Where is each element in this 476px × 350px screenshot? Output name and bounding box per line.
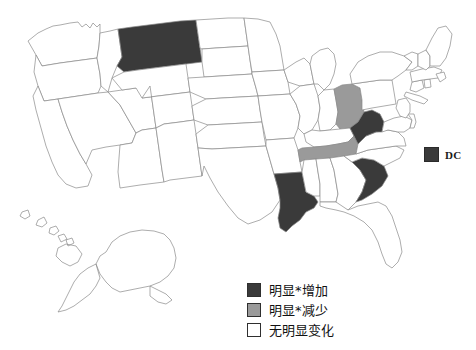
state-tx [198,146,280,224]
legend-swatch-decrease-icon [247,303,261,317]
map-figure: DC 明显*增加 明显*减少 无明显变化 [0,0,476,350]
state-hi [20,210,82,266]
legend-item-no-change: 无明显变化 [247,321,334,338]
state-ia [252,70,290,96]
legend-label-decrease: 明显*减少 [269,300,328,319]
state-nd [196,18,248,49]
state-md [382,116,412,132]
state-nj [396,98,410,118]
legend-label-increase: 明显*增加 [269,280,328,299]
state-nm [156,120,202,182]
state-ny [350,52,412,84]
state-mi [310,48,336,90]
state-ok [196,122,266,149]
us-choropleth-map [0,0,476,350]
state-fl [320,202,402,268]
state-mt [117,20,202,72]
dc-label: DC [445,149,462,161]
state-ks [192,96,262,125]
legend-item-increase: 明显*增加 [247,281,334,298]
legend-item-decrease: 明显*减少 [247,301,334,318]
state-ak [58,230,176,312]
state-ne [188,74,258,99]
map-legend: 明显*增加 明显*减少 无明显变化 [247,281,334,338]
legend-swatch-no-change-icon [247,323,261,337]
state-mo [258,94,300,140]
state-sd [202,46,252,77]
legend-label-no-change: 无明显变化 [269,320,334,339]
state-shapes [20,18,452,312]
dc-marker: DC [424,147,462,162]
state-ri [424,79,431,88]
state-me [426,26,452,66]
legend-swatch-increase-icon [247,283,261,297]
cape-cod [436,72,446,82]
state-wi [284,58,314,86]
dc-swatch-icon [424,147,439,162]
